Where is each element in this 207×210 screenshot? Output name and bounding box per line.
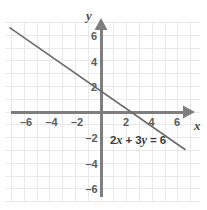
y-tick-label-neg2: –2	[86, 133, 98, 144]
plotted-line	[10, 28, 185, 150]
graph-canvas	[0, 0, 207, 210]
y-axis-arrowhead	[95, 18, 108, 30]
equation-annotation: 2x + 3y = 6	[110, 134, 166, 147]
y-tick-label-neg4: –4	[86, 159, 98, 170]
y-tick-label-6: 6	[91, 31, 97, 42]
x-tick-label-6: 6	[174, 117, 180, 128]
equation-plus: +	[122, 134, 135, 146]
linear-function-line	[10, 28, 185, 150]
x-tick-label-neg2: –2	[71, 117, 83, 128]
equation-rhs: 6	[160, 134, 166, 146]
x-tick-label-neg4: –4	[46, 117, 58, 128]
x-axis-arrowhead	[183, 106, 195, 119]
coordinate-plane-graph: –6 –4 –2 2 4 6 6 4 2 –2 –4 –6 y x 2x + 3…	[0, 0, 207, 210]
equation-equals: =	[147, 134, 160, 146]
x-tick-label-4: 4	[149, 117, 155, 128]
axes	[11, 18, 195, 197]
x-tick-label-neg6: –6	[20, 117, 32, 128]
y-tick-label-4: 4	[91, 57, 97, 68]
x-tick-label-2: 2	[123, 117, 129, 128]
y-tick-label-2: 2	[91, 82, 97, 93]
y-axis-label: y	[86, 9, 92, 22]
y-tick-label-neg6: –6	[86, 184, 98, 195]
x-axis-label: x	[194, 119, 201, 132]
